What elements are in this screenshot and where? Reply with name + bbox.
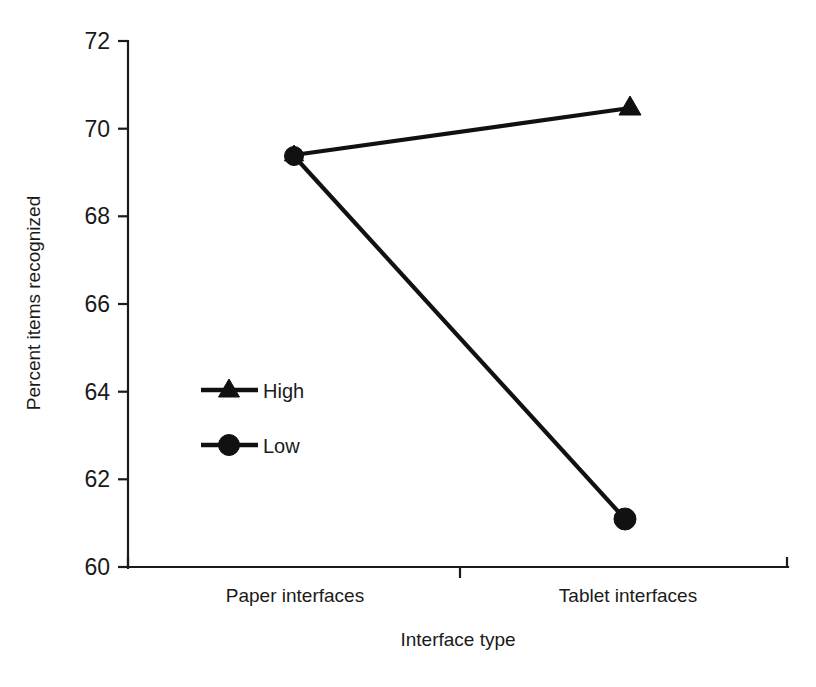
y-axis: 72 70 68 66 64 62 60 Percent items recog… <box>23 28 128 580</box>
legend-low-label: Low <box>263 435 300 457</box>
x-axis: Paper interfaces Tablet interfaces Inter… <box>128 557 788 650</box>
series-low-line <box>294 156 625 519</box>
y-tick-label-72: 72 <box>84 28 110 54</box>
series-low-marker-paper-interfaces <box>285 147 304 166</box>
y-tick-label-68: 68 <box>84 203 110 229</box>
legend-high-label: High <box>263 380 304 402</box>
y-tick-label-64: 64 <box>84 379 110 405</box>
x-tick-label-tablet-interfaces: Tablet interfaces <box>559 585 697 606</box>
y-tick-label-70: 70 <box>84 116 110 142</box>
y-tick-label-66: 66 <box>84 291 110 317</box>
y-axis-title: Percent items recognized <box>23 196 44 410</box>
y-tick-label-60: 60 <box>84 554 110 580</box>
series-high <box>285 96 642 161</box>
x-axis-title: Interface type <box>400 629 515 650</box>
legend-entry-low: Low <box>201 435 300 458</box>
chart-figure: 72 70 68 66 64 62 60 Percent items recog… <box>0 0 816 687</box>
legend-entry-high: High <box>201 379 304 402</box>
x-tick-label-paper-interfaces: Paper interfaces <box>226 585 364 606</box>
line-chart-plot: 72 70 68 66 64 62 60 Percent items recog… <box>0 0 816 687</box>
series-low <box>285 147 637 531</box>
legend-low-circle-icon <box>219 435 240 456</box>
series-low-marker-tablet-interfaces <box>614 508 636 530</box>
chart-legend: High Low <box>201 379 304 457</box>
y-tick-label-62: 62 <box>84 466 110 492</box>
series-high-marker-tablet-interfaces <box>619 96 641 115</box>
series-high-line <box>294 108 630 155</box>
